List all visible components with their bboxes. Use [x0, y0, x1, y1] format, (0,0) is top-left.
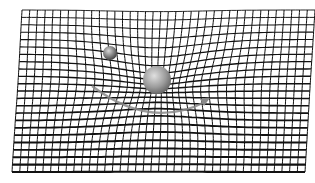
- small-sphere: [103, 46, 117, 60]
- large-sphere: [143, 66, 171, 94]
- spacetime-illustration: [0, 0, 315, 183]
- warped-grid-artwork: [0, 0, 315, 183]
